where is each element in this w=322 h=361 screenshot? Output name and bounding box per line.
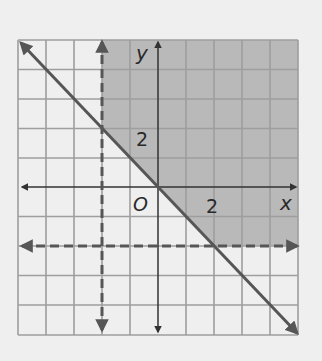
x-tick-label-2: 2 <box>206 195 218 217</box>
x-axis-label: x <box>279 191 292 215</box>
shaded-solution-region <box>102 40 298 246</box>
y-tick-label-2: 2 <box>136 128 148 150</box>
inequality-graph: y x O 2 2 <box>0 0 322 361</box>
origin-label: O <box>133 193 148 215</box>
y-axis-label: y <box>135 41 149 65</box>
